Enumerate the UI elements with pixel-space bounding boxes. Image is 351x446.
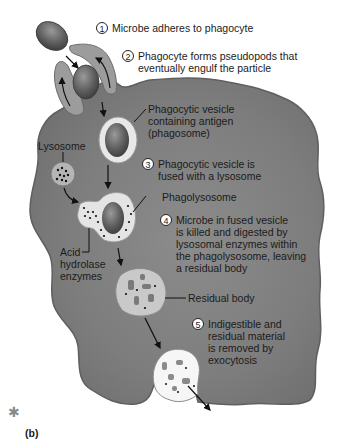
phagosome-microbe [105, 123, 129, 157]
step-number-4: 4 [160, 214, 172, 226]
label-lysosome: Lysosome [38, 140, 85, 152]
step-number-2: 2 [122, 50, 134, 62]
asterisk-icon: ✱ [8, 404, 20, 420]
step-number-1: 1 [96, 22, 108, 34]
panel-label: (b) [25, 427, 38, 439]
step-1: 1Microbe adheres to phagocyte [96, 22, 253, 34]
step-3: 3Phagocytic vesicle isfused with a lysos… [142, 158, 261, 182]
microbe-adhering [31, 16, 74, 57]
step-4: 4 Microbe in fused vesicle is killed and… [160, 214, 306, 274]
label-acid-hydrolase: Acidhydrolaseenzymes [60, 246, 106, 282]
step-number-3: 3 [142, 158, 154, 170]
step-2: 2Phagocyte forms pseudopods thateventual… [122, 50, 297, 74]
label-residual-body: Residual body [188, 292, 255, 304]
step-number-5: 5 [192, 318, 204, 330]
label-phagolysosome: Phagolysosome [162, 191, 237, 203]
step-5: 5 Indigestible and residual material is … [192, 318, 285, 366]
label-phagosome: Phagocytic vesiclecontaining antigen(pha… [148, 103, 234, 139]
lysosome [51, 162, 75, 186]
microbe-engulfed [73, 65, 99, 99]
